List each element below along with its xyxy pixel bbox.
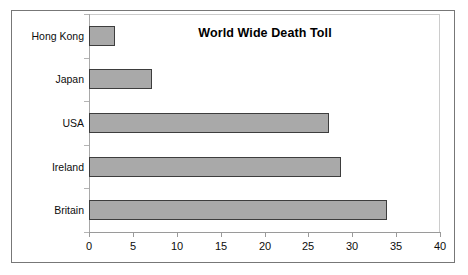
y-axis-label-ireland-wrap: Ireland xyxy=(0,161,84,173)
x-axis-tick xyxy=(396,232,397,237)
y-axis-tick xyxy=(84,101,89,102)
y-axis-tick xyxy=(84,188,89,189)
y-axis-label-britain-wrap: Britain xyxy=(0,204,84,216)
y-axis-label-japan: Japan xyxy=(55,73,84,85)
x-axis-tick-label: 40 xyxy=(425,240,455,253)
x-axis-tick xyxy=(89,232,90,237)
y-axis-label-usa-wrap: USA xyxy=(0,117,84,129)
y-axis-tick xyxy=(84,58,89,59)
x-axis-tick-label: 10 xyxy=(162,240,192,253)
x-axis-tick xyxy=(221,232,222,237)
x-axis-tick xyxy=(352,232,353,237)
bar-ireland[interactable] xyxy=(89,157,341,177)
bar-japan[interactable] xyxy=(89,69,152,89)
x-axis-tick-label: 25 xyxy=(293,240,323,253)
y-axis-label-britain: Britain xyxy=(54,204,84,216)
x-axis-tick xyxy=(440,232,441,237)
y-axis-tick xyxy=(84,145,89,146)
y-axis-label-ireland: Ireland xyxy=(52,161,84,173)
x-axis-tick xyxy=(133,232,134,237)
chart-title: World Wide Death Toll xyxy=(150,26,380,40)
y-axis-label-usa: USA xyxy=(62,117,84,129)
x-axis-tick-label: 30 xyxy=(337,240,367,253)
x-axis-tick-label: 0 xyxy=(74,240,104,253)
chart-container: World Wide Death Toll Hong Kong Japan US… xyxy=(0,0,468,275)
y-axis-label-japan-wrap: Japan xyxy=(0,73,84,85)
x-axis-tick xyxy=(265,232,266,237)
x-axis-tick-label: 15 xyxy=(206,240,236,253)
bar-usa[interactable] xyxy=(89,113,329,133)
x-axis-tick-label: 35 xyxy=(381,240,411,253)
x-axis-tick xyxy=(177,232,178,237)
x-axis-tick-label: 20 xyxy=(250,240,280,253)
x-axis-tick-label: 5 xyxy=(118,240,148,253)
y-axis-label-hong-kong-wrap: Hong Kong xyxy=(0,30,84,42)
bar-hong-kong[interactable] xyxy=(89,26,115,46)
x-axis-tick xyxy=(308,232,309,237)
y-axis-tick xyxy=(84,14,89,15)
bar-britain[interactable] xyxy=(89,200,387,220)
y-axis-label-hong-kong: Hong Kong xyxy=(31,30,84,42)
